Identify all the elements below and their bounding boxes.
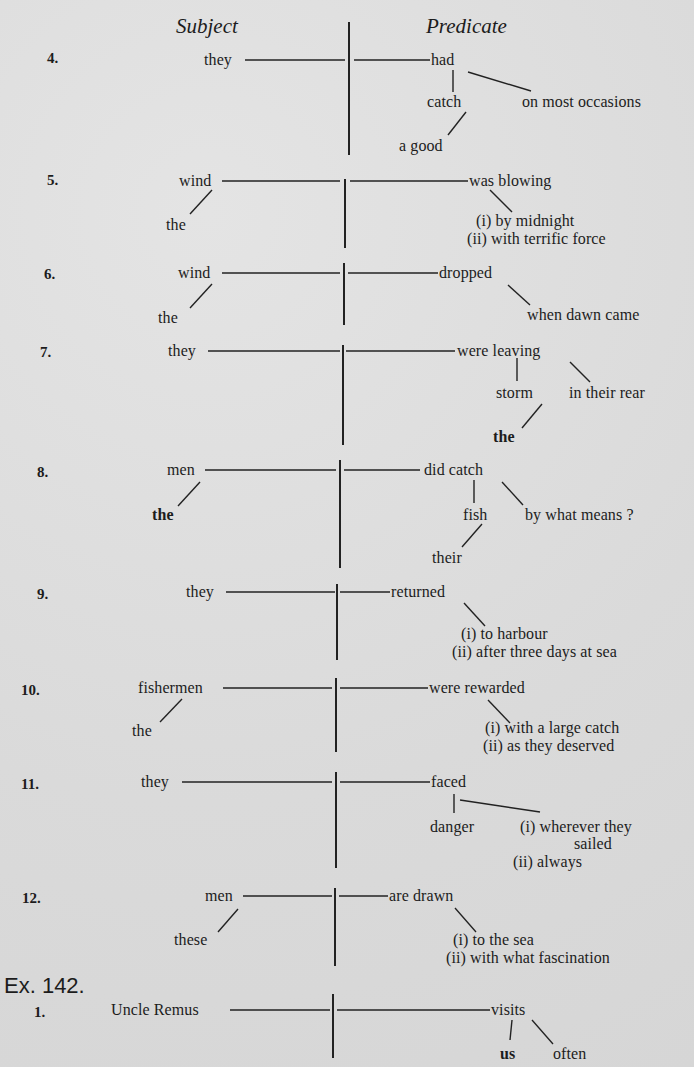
diagram-number: 12. <box>22 890 41 907</box>
diagram-number: 1. <box>34 1004 45 1021</box>
predicate-word: was blowing <box>469 172 551 190</box>
adverbial-modifier: by what means ? <box>525 506 634 524</box>
predicate-word: dropped <box>439 264 492 282</box>
adverbial-modifier: (ii) with what fascination <box>446 949 610 967</box>
subject-word: men <box>167 461 195 479</box>
subject-word: wind <box>179 172 211 190</box>
adverbial-modifier: (ii) as they deserved <box>483 737 614 755</box>
predicate-word: faced <box>431 773 466 791</box>
subject-modifier: the <box>132 722 152 740</box>
diagram-number: 10. <box>21 682 40 699</box>
adverbial-modifier: (ii) always <box>513 853 582 871</box>
subject-word: wind <box>178 264 210 282</box>
predicate-word: visits <box>491 1001 525 1019</box>
predicate-word: are drawn <box>389 887 453 905</box>
predicate-word: returned <box>391 583 445 601</box>
adverbial-modifier-continued: sailed <box>574 835 612 853</box>
adverbial-modifier: (ii) after three days at sea <box>452 643 617 661</box>
adverbial-modifier: (i) wherever they <box>520 818 632 836</box>
adverbial-modifier: (ii) with terrific force <box>467 230 606 248</box>
diagram-number: 6. <box>44 266 55 283</box>
adverbial-modifier: often <box>553 1045 586 1063</box>
adverbial-modifier: (i) to the sea <box>453 931 534 949</box>
adverbial-modifier: (i) by midnight <box>476 212 574 230</box>
subject-word: they <box>141 773 169 791</box>
object-word: us <box>500 1045 515 1063</box>
object-word: storm <box>496 384 533 402</box>
subject-word: fishermen <box>138 679 203 697</box>
subject-word: they <box>168 342 196 360</box>
exercise-heading: Ex. 142. <box>4 973 85 999</box>
subject-modifier: the <box>166 216 186 234</box>
object-word: catch <box>427 93 461 111</box>
adverbial-modifier: on most occasions <box>522 93 641 111</box>
adverbial-modifier: (i) with a large catch <box>485 719 619 737</box>
predicate-header: Predicate <box>426 14 507 39</box>
predicate-word: had <box>431 51 454 69</box>
subject-word: men <box>205 887 233 905</box>
diagram-number: 11. <box>21 776 39 793</box>
subject-modifier: the <box>152 506 174 524</box>
adverbial-modifier: (i) to harbour <box>461 625 548 643</box>
predicate-word: did catch <box>424 461 483 479</box>
diagram-number: 7. <box>40 344 51 361</box>
diagram-number: 4. <box>47 50 58 67</box>
predicate-word: were leaving <box>457 342 540 360</box>
subject-modifier: the <box>158 309 178 327</box>
adverbial-modifier: when dawn came <box>527 306 639 324</box>
object-modifier: a good <box>399 137 443 155</box>
subject-header: Subject <box>176 14 238 39</box>
diagram-number: 5. <box>47 172 58 189</box>
subject-word: they <box>204 51 232 69</box>
object-modifier: the <box>493 428 515 446</box>
diagram-number: 8. <box>37 464 48 481</box>
object-modifier: their <box>432 549 462 567</box>
subject-word: Uncle Remus <box>111 1001 199 1019</box>
object-word: fish <box>463 506 487 524</box>
subject-modifier: these <box>174 931 207 949</box>
diagram-number: 9. <box>37 586 48 603</box>
predicate-word: were rewarded <box>429 679 525 697</box>
adverbial-modifier: in their rear <box>569 384 645 402</box>
subject-word: they <box>186 583 214 601</box>
object-word: danger <box>430 818 474 836</box>
diagram-lines <box>0 0 694 1067</box>
